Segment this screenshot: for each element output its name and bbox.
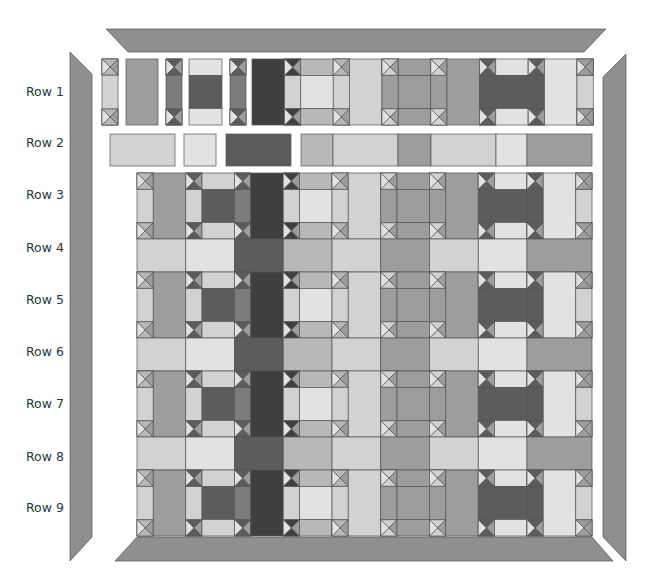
block-edge-bottom (202, 421, 235, 438)
sashing-strip (332, 338, 381, 371)
row-label-2: Row 2 (26, 136, 64, 150)
sashing-strip (527, 239, 592, 272)
vertical-rectangle (153, 173, 186, 239)
block-edge-top (202, 173, 235, 190)
row2-piece (527, 134, 592, 166)
vertical-rectangle (543, 272, 576, 338)
sashing-strip (235, 239, 284, 272)
sashing-strip (381, 338, 430, 371)
row1-block-edge (189, 109, 222, 126)
vertical-rectangle (446, 371, 479, 437)
vertical-rectangle (543, 371, 576, 437)
block-edge-top (202, 470, 235, 487)
row-label-8: Row 8 (26, 450, 64, 464)
block-edge-top (300, 173, 333, 190)
row2-piece (226, 134, 291, 166)
sashing-strip (137, 239, 186, 272)
sashing-strip (478, 437, 527, 470)
row1-block-center (189, 76, 222, 109)
sashing-strip (283, 338, 332, 371)
block-edge-top (397, 470, 430, 487)
sashing-strip (527, 437, 592, 470)
block-center (300, 487, 333, 520)
row-label-4: Row 4 (26, 241, 64, 255)
block-center (397, 487, 430, 520)
sashing-strip (283, 437, 332, 470)
sashing-strip (478, 239, 527, 272)
sashing-strip (332, 239, 381, 272)
block-edge-bottom (300, 421, 333, 438)
block-center (300, 289, 333, 322)
top-border (106, 29, 606, 52)
block-edge-bottom (300, 223, 333, 240)
block-edge-bottom (300, 520, 333, 537)
vertical-rectangle (348, 173, 381, 239)
row2-piece (398, 134, 431, 166)
block-edge-bottom (397, 223, 430, 240)
vertical-rectangle (545, 59, 578, 125)
block-center (397, 289, 430, 322)
sashing-strip (381, 239, 430, 272)
row2-piece (496, 134, 527, 166)
block-center (495, 289, 528, 322)
block-edge-top (495, 470, 528, 487)
block-center (398, 76, 431, 109)
row-label-1: Row 1 (26, 85, 64, 99)
block-center (202, 388, 235, 421)
row2-piece (333, 134, 398, 166)
vertical-rectangle (446, 272, 479, 338)
block-edge-bottom (495, 223, 528, 240)
quilt-assembly-svg (0, 0, 648, 584)
vertical-rectangle (251, 371, 284, 437)
row1-rectangle (126, 59, 158, 125)
block-edge-top (300, 272, 333, 289)
block-edge-top (397, 173, 430, 190)
block-center (202, 289, 235, 322)
block-edge-top (300, 470, 333, 487)
block-center (495, 388, 528, 421)
block-edge-bottom (496, 109, 529, 126)
sashing-strip (527, 338, 592, 371)
block-edge-bottom (301, 109, 334, 126)
sashing-strip (137, 437, 186, 470)
block-edge-bottom (398, 109, 431, 126)
block-center (495, 487, 528, 520)
block-edge-top (300, 371, 333, 388)
sashing-strip (381, 437, 430, 470)
block-edge-bottom (202, 223, 235, 240)
vertical-rectangle (446, 470, 479, 536)
row2-piece (110, 134, 175, 166)
vertical-rectangle (252, 59, 285, 125)
sashing-strip (235, 338, 284, 371)
vertical-rectangle (350, 59, 383, 125)
block-edge-top (495, 371, 528, 388)
block-edge-top (397, 371, 430, 388)
block-edge-top (397, 272, 430, 289)
row-label-7: Row 7 (26, 397, 64, 411)
vertical-rectangle (153, 470, 186, 536)
block-center (397, 388, 430, 421)
block-edge-top (202, 272, 235, 289)
block-edge-top (495, 173, 528, 190)
block-edge-top (496, 59, 529, 76)
sashing-strip (430, 437, 479, 470)
row1-block-edge (189, 59, 222, 76)
sashing-strip (235, 437, 284, 470)
block-edge-bottom (495, 322, 528, 339)
block-edge-bottom (397, 421, 430, 438)
sashing-strip (137, 338, 186, 371)
bottom-border (115, 537, 613, 561)
block-edge-bottom (495, 421, 528, 438)
vertical-rectangle (153, 371, 186, 437)
block-edge-top (398, 59, 431, 76)
vertical-rectangle (446, 173, 479, 239)
block-center (202, 190, 235, 223)
block-center (397, 190, 430, 223)
block-edge-top (495, 272, 528, 289)
vertical-rectangle (543, 470, 576, 536)
block-edge-bottom (397, 520, 430, 537)
vertical-rectangle (251, 470, 284, 536)
block-center (301, 76, 334, 109)
block-edge-bottom (495, 520, 528, 537)
vertical-rectangle (348, 470, 381, 536)
